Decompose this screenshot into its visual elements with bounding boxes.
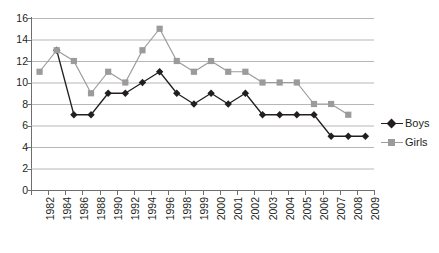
x-axis-tick-mark bbox=[151, 191, 152, 195]
x-axis-tick-mark bbox=[271, 191, 272, 195]
x-axis-tick-mark bbox=[340, 191, 341, 195]
y-axis-tick-mark bbox=[27, 18, 32, 19]
x-axis-tick-label: 2006 bbox=[319, 197, 330, 241]
chart-root: 1614121086420 19821984198619881990199219… bbox=[0, 0, 439, 253]
y-axis-tick-mark bbox=[27, 190, 32, 191]
y-axis-tick-mark bbox=[27, 147, 32, 148]
square-marker-icon bbox=[388, 139, 395, 146]
x-axis-tick-label: 2007 bbox=[336, 197, 347, 241]
x-axis-tick-label: 2009 bbox=[370, 197, 381, 241]
x-axis-tick-mark bbox=[288, 191, 289, 195]
chart-legend: Boys Girls bbox=[381, 114, 439, 152]
x-axis-tick-label: 2001 bbox=[233, 197, 244, 241]
x-axis-tick-label: 1982 bbox=[45, 197, 56, 241]
x-axis-tick-mark bbox=[65, 191, 66, 195]
y-axis-tick-mark bbox=[27, 40, 32, 41]
x-axis-tick-label: 1988 bbox=[96, 197, 107, 241]
y-axis-tick-mark bbox=[27, 104, 32, 105]
x-axis-tick-mark bbox=[374, 191, 375, 195]
x-axis-tick-label: 1984 bbox=[62, 197, 73, 241]
x-axis-tick-mark bbox=[168, 191, 169, 195]
y-axis-tick-mark bbox=[27, 126, 32, 127]
x-axis-tick-label: 2005 bbox=[302, 197, 313, 241]
x-axis-tick-label: 1999 bbox=[199, 197, 210, 241]
x-axis-labels: 1982198419861988199019921994199619981999… bbox=[0, 0, 439, 253]
x-axis-tick-label: 1998 bbox=[182, 197, 193, 241]
x-axis-tick-label: 2004 bbox=[285, 197, 296, 241]
x-axis-tick-label: 1986 bbox=[79, 197, 90, 241]
x-axis-tick-mark bbox=[323, 191, 324, 195]
x-axis-tick-mark bbox=[254, 191, 255, 195]
x-axis-tick-mark bbox=[117, 191, 118, 195]
y-axis-tick-mark bbox=[27, 61, 32, 62]
x-axis-tick-mark bbox=[220, 191, 221, 195]
legend-label-boys: Boys bbox=[405, 118, 429, 129]
x-axis-tick-label: 1994 bbox=[147, 197, 158, 241]
legend-label-girls: Girls bbox=[405, 137, 428, 148]
x-axis-tick-mark bbox=[100, 191, 101, 195]
x-axis-tick-label: 2002 bbox=[250, 197, 261, 241]
x-axis-tick-label: 2003 bbox=[268, 197, 279, 241]
x-axis-tick-mark bbox=[48, 191, 49, 195]
x-axis-tick-label: 1996 bbox=[165, 197, 176, 241]
x-axis-tick-label: 1990 bbox=[113, 197, 124, 241]
legend-item-boys[interactable]: Boys bbox=[381, 114, 439, 133]
legend-item-girls[interactable]: Girls bbox=[381, 133, 439, 152]
x-axis-tick-mark bbox=[305, 191, 306, 195]
diamond-marker-icon bbox=[387, 119, 397, 129]
x-axis-tick-label: 2000 bbox=[216, 197, 227, 241]
legend-swatch-girls bbox=[381, 137, 403, 149]
y-axis-tick-mark bbox=[27, 83, 32, 84]
x-axis-tick-mark bbox=[82, 191, 83, 195]
x-axis-tick-label: 2008 bbox=[353, 197, 364, 241]
x-axis-tick-label: 1992 bbox=[130, 197, 141, 241]
x-axis-tick-mark bbox=[357, 191, 358, 195]
y-axis-tick-mark bbox=[27, 169, 32, 170]
x-axis-tick-mark bbox=[31, 191, 32, 195]
x-axis-tick-mark bbox=[185, 191, 186, 195]
x-axis-tick-mark bbox=[237, 191, 238, 195]
x-axis-tick-mark bbox=[134, 191, 135, 195]
x-axis-tick-mark bbox=[203, 191, 204, 195]
legend-swatch-boys bbox=[381, 118, 403, 130]
